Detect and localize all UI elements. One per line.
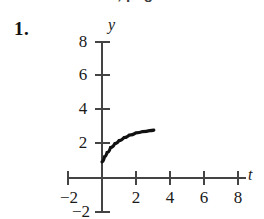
x-tick-label-minus2: −2 bbox=[54, 188, 84, 208]
y-axis-label: y bbox=[108, 16, 115, 34]
x-axis-label: t bbox=[248, 166, 252, 184]
figure-page: Exercise 4.1, page 5 1. bbox=[0, 0, 264, 219]
x-tick-label-8: 8 bbox=[229, 188, 247, 208]
x-tick-label-6: 6 bbox=[195, 188, 213, 208]
y-tick-label-8: 8 bbox=[74, 32, 92, 52]
x-tick-label-2: 2 bbox=[127, 188, 145, 208]
graph-figure: y t 8 6 4 2 −2 −2 2 4 6 8 bbox=[0, 0, 264, 219]
y-tick-label-6: 6 bbox=[74, 65, 92, 85]
coordinate-plot bbox=[0, 0, 264, 219]
plotted-curve bbox=[102, 130, 154, 162]
x-tick-label-4: 4 bbox=[161, 188, 179, 208]
y-tick-label-2: 2 bbox=[74, 133, 92, 153]
y-tick-label-4: 4 bbox=[74, 99, 92, 119]
